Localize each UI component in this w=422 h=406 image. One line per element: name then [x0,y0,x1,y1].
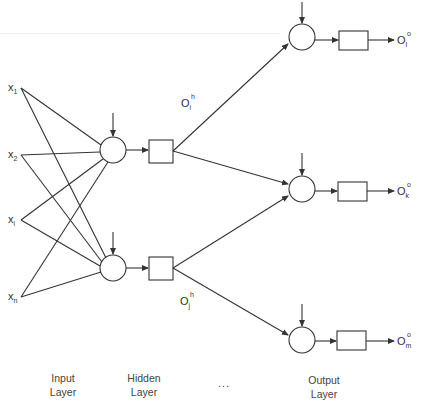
output-label-m: Omo [397,336,411,349]
hidden-output-label-i: Oih [181,98,191,111]
input-label-xi: xi [8,214,15,227]
output-neuron-l [289,24,315,50]
output-layer-caption: Output Layer [294,373,354,401]
hidden-activation-box-j [149,257,173,280]
hidden-neuron-i [100,137,126,163]
hidden-activation-box-i [149,140,173,163]
input-layer-caption: Input Layer [33,371,93,399]
output-label-l: Olo [397,35,407,48]
hidden-output-label-j: Ojh [180,296,190,309]
output-activation-box-k [338,182,367,201]
network-diagram [0,0,422,406]
input-label-x2: x2 [8,149,17,162]
input-label-xn: xn [8,291,17,304]
output-activation-box-m [337,331,366,350]
layer-ellipsis: ... [194,376,254,390]
output-neuron-k [289,176,315,202]
hidden-layer-caption: Hidden Layer [114,371,174,399]
output-label-k: Oko [397,186,409,199]
output-neuron-m [289,327,315,353]
output-activation-box-l [339,31,368,50]
input-connections [21,88,108,297]
input-label-x1: x1 [8,82,17,95]
hidden-neuron-j [100,255,126,281]
